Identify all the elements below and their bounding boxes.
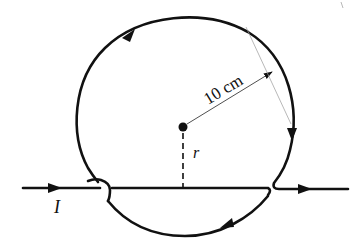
arrow-right-side xyxy=(287,128,297,141)
distance-label-r: r xyxy=(193,144,200,161)
current-arrow-left xyxy=(48,183,62,193)
bottom-arc xyxy=(108,196,268,236)
current-arrow-right xyxy=(298,184,312,194)
straight-wire-middle xyxy=(112,188,270,195)
radius-label: 10 cm xyxy=(200,70,246,108)
stray-mark xyxy=(341,2,343,8)
center-point xyxy=(179,123,188,132)
circular-loop-diagram: 10 cm r I xyxy=(0,0,358,249)
straight-wire-left xyxy=(23,183,100,193)
current-label-I: I xyxy=(53,197,61,217)
arrow-bottom xyxy=(220,218,234,228)
